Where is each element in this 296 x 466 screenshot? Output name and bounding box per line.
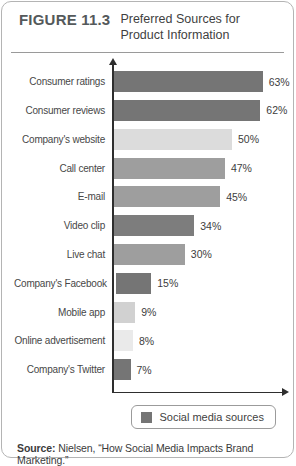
bar	[114, 158, 225, 179]
legend-label: Social media sources	[159, 411, 264, 423]
y-axis-arrow-icon	[109, 58, 117, 65]
bar	[114, 186, 220, 207]
bar	[114, 244, 185, 265]
category-label: Consumer ratings	[14, 76, 112, 87]
value-label: 9%	[141, 306, 156, 318]
value-label: 50%	[238, 133, 259, 145]
bar-row: Video clip34%	[14, 211, 287, 240]
bar-row: Company's website50%	[14, 125, 287, 154]
bar-row: Company's Twitter7%	[14, 355, 287, 384]
bar	[114, 215, 194, 236]
bar-row: Mobile app9%	[14, 298, 287, 327]
value-label: 45%	[226, 191, 247, 203]
category-label: Consumer reviews	[14, 105, 112, 116]
x-axis-line	[112, 392, 285, 394]
source-line: Source: Nielsen, “How Social Media Impac…	[17, 442, 279, 466]
value-label: 7%	[137, 364, 152, 376]
figure-number-label: FIGURE 11.3	[19, 12, 110, 29]
category-label: Company's Twitter	[14, 364, 112, 375]
category-label: E-mail	[14, 191, 112, 202]
figure-title-line-1: Preferred Sources for	[120, 12, 240, 26]
legend-swatch	[141, 412, 152, 423]
bar	[114, 330, 133, 351]
figure-card: FIGURE 11.3 Preferred Sources for Produc…	[1, 1, 294, 458]
category-label: Call center	[14, 163, 112, 174]
category-label: Company's website	[14, 134, 112, 145]
bar	[114, 302, 135, 323]
figure-header: FIGURE 11.3 Preferred Sources for Produc…	[2, 2, 293, 43]
x-axis-arrow-icon	[282, 388, 289, 396]
bar-rows: Consumer ratings63%Consumer reviews62%Co…	[14, 67, 287, 384]
bar-row: Call center47%	[14, 154, 287, 183]
bar-row: Online advertisement8%	[14, 326, 287, 355]
bar-row: E-mail45%	[14, 182, 287, 211]
bar-row: Live chat30%	[14, 240, 287, 269]
category-label: Company's Facebook	[14, 278, 114, 289]
bar-chart: Consumer ratings63%Consumer reviews62%Co…	[14, 57, 287, 393]
category-label: Mobile app	[14, 307, 112, 318]
figure-title-line-2: Product Information	[120, 28, 229, 42]
value-label: 62%	[266, 104, 287, 116]
value-label: 63%	[269, 76, 290, 88]
value-label: 8%	[139, 335, 154, 347]
bar	[114, 129, 232, 150]
bar-row: Consumer ratings63%	[14, 67, 287, 96]
y-axis-line	[112, 65, 114, 393]
category-label: Live chat	[14, 249, 112, 260]
bar	[114, 100, 260, 121]
bar-row: Company's Facebook15%	[14, 269, 287, 298]
bar	[116, 273, 151, 294]
category-label: Online advertisement	[14, 335, 112, 346]
source-prefix: Source:	[17, 442, 55, 454]
category-label: Video clip	[14, 220, 112, 231]
header-divider	[11, 52, 284, 53]
value-label: 47%	[231, 162, 252, 174]
bar-row: Consumer reviews62%	[14, 96, 287, 125]
bar	[114, 71, 263, 92]
figure-title: Preferred Sources for Product Informatio…	[120, 12, 240, 43]
value-label: 15%	[157, 277, 178, 289]
bar	[114, 359, 131, 380]
value-label: 34%	[200, 220, 221, 232]
value-label: 30%	[191, 248, 212, 260]
chart-legend: Social media sources	[131, 405, 276, 429]
